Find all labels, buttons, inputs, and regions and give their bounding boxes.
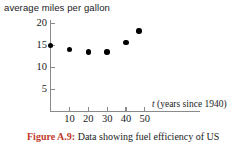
x-tick-mark xyxy=(107,107,108,111)
data-point xyxy=(67,47,72,52)
data-point xyxy=(86,49,91,54)
data-point xyxy=(48,43,53,48)
x-tick-mark xyxy=(69,107,70,111)
x-axis-label: t (years since 1940) xyxy=(152,99,227,109)
y-tick-label: 10 xyxy=(25,61,47,72)
data-point xyxy=(136,28,141,33)
x-tick-label: 50 xyxy=(135,113,155,124)
data-point xyxy=(104,49,109,54)
x-tick-label: 10 xyxy=(59,113,79,124)
y-tick-mark xyxy=(51,23,55,24)
x-tick-label: 40 xyxy=(116,113,136,124)
figure-container: average miles per gallon 2015105 1020304… xyxy=(0,0,235,144)
figure-caption-label: Figure A.9: xyxy=(27,131,75,142)
x-axis-units: (years since 1940) xyxy=(155,99,227,109)
x-tick-label: 30 xyxy=(97,113,117,124)
figure-caption: Figure A.9: Data showing fuel efficiency… xyxy=(27,131,235,142)
scatter-plot: 2015105 1020304050 t (years since 1940) xyxy=(0,0,235,130)
x-tick-label: 20 xyxy=(78,113,98,124)
y-tick-label: 15 xyxy=(25,39,47,50)
y-tick-mark xyxy=(51,89,55,90)
y-tick-mark xyxy=(51,67,55,68)
x-tick-mark xyxy=(144,107,145,111)
x-tick-mark xyxy=(88,107,89,111)
y-tick-label: 20 xyxy=(25,17,47,28)
figure-caption-text: Data showing fuel efficiency of US xyxy=(75,131,219,142)
data-point xyxy=(123,40,128,45)
y-tick-label: 5 xyxy=(25,83,47,94)
x-tick-mark xyxy=(125,107,126,111)
